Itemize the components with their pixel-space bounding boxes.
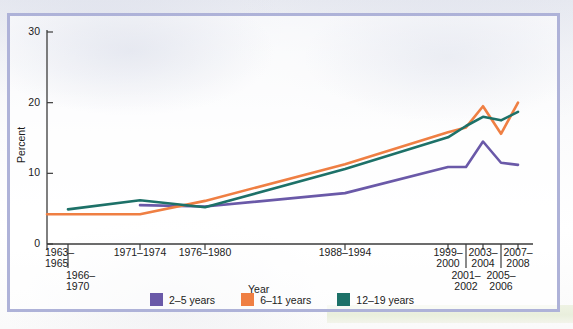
legend-item-label: 12–19 years (356, 294, 414, 306)
legend-item: 6–11 years (241, 293, 311, 306)
y-axis-tick-label: 30 (14, 26, 40, 37)
chart-axes (47, 30, 533, 244)
legend-item-label: 6–11 years (260, 294, 311, 306)
legend-item: 12–19 years (337, 293, 414, 306)
legend-color-swatch (337, 293, 350, 306)
legend-item: 2–5 years (150, 293, 215, 306)
legend-color-swatch (241, 293, 254, 306)
legend-color-swatch (150, 293, 163, 306)
x-axis-tick-label: 2007–2008 (486, 247, 550, 269)
chart-legend: 2–5 years6–11 years12–19 years (150, 293, 414, 306)
y-axis-tick-label: 0 (14, 238, 40, 249)
chart-series-group (47, 103, 518, 215)
series-line-6-11-years (47, 103, 518, 215)
x-axis-tick-label: 1976–1980 (173, 247, 237, 258)
y-axis-title: Percent (15, 115, 27, 175)
x-axis-tick-label: 1963–1965 (45, 247, 109, 269)
series-line-12-19-years (68, 112, 518, 210)
x-axis-tick-label: 1988–1994 (313, 247, 377, 258)
x-axis-tick-label: 2005–2006 (469, 270, 533, 292)
x-axis-tick-label: 1966–1970 (66, 270, 130, 292)
legend-item-label: 2–5 years (169, 294, 215, 306)
x-axis-tick-label: 1971–1974 (108, 247, 172, 258)
y-axis-ticks (47, 32, 53, 244)
y-axis-tick-label: 20 (14, 97, 40, 108)
